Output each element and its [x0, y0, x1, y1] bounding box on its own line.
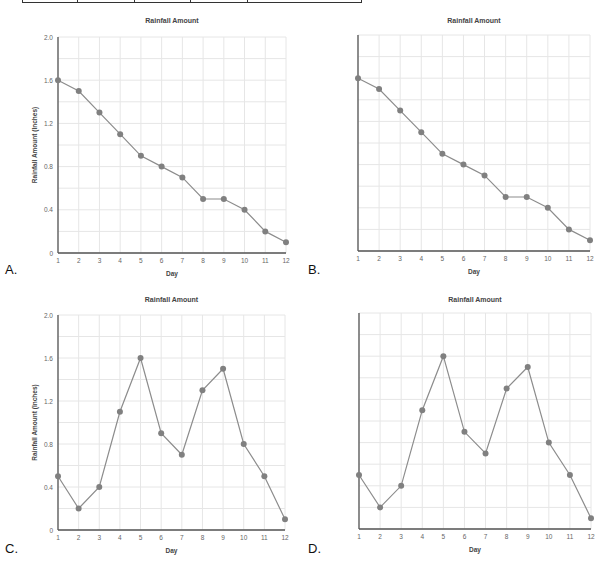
data-point-marker [355, 75, 361, 81]
data-point-marker [282, 516, 288, 522]
x-axis-label: Day [469, 546, 481, 554]
data-point-marker [588, 515, 594, 521]
data-point-marker [398, 483, 404, 489]
data-point-marker [55, 77, 61, 83]
data-point-marker [504, 386, 510, 392]
data-point-marker [439, 151, 445, 157]
y-tick-label: 0.8 [44, 163, 53, 170]
data-point-marker [482, 172, 488, 178]
data-point-marker [262, 228, 268, 234]
data-point-marker [545, 205, 551, 211]
x-tick-label: 12 [281, 534, 289, 541]
chart-title: Rainfall Amount [448, 296, 502, 303]
y-tick-label: 2.0 [44, 312, 53, 319]
x-tick-label: 12 [586, 255, 594, 262]
x-axis-label: Day [166, 547, 178, 555]
data-point-marker [376, 86, 382, 92]
x-tick-label: 11 [261, 534, 268, 541]
x-tick-label: 9 [526, 533, 530, 540]
data-point-marker [567, 472, 573, 478]
y-tick-label: 1.2 [44, 120, 53, 127]
data-line [358, 78, 590, 240]
data-point-marker [200, 196, 206, 202]
x-tick-label: 2 [377, 255, 381, 262]
data-point-marker [524, 194, 530, 200]
x-tick-label: 11 [262, 257, 269, 264]
chart-d: Rainfall Amount123456789101112Day [356, 296, 595, 554]
data-line [58, 80, 286, 242]
x-tick-label: 2 [77, 257, 81, 264]
grid [58, 37, 286, 253]
x-tick-label: 10 [240, 534, 248, 541]
data-point-marker [356, 472, 362, 478]
x-tick-label: 4 [420, 533, 424, 540]
option-label-d: D. [308, 541, 321, 556]
x-tick-label: 2 [77, 534, 81, 541]
data-point-marker [179, 174, 185, 180]
chart-b: Rainfall Amount123456789101112Day [355, 17, 594, 276]
x-tick-label: 11 [566, 255, 573, 262]
x-tick-label: 6 [463, 533, 467, 540]
data-point-marker [117, 131, 123, 137]
y-axis-label: Rainfall Amount (Inches) [31, 107, 39, 183]
x-tick-label: 8 [505, 533, 509, 540]
answer-choice-charts: Rainfall Amount123456789101112Day00.40.8… [0, 0, 610, 566]
data-point-marker [283, 239, 289, 245]
y-tick-label: 0.4 [44, 206, 53, 213]
data-point-marker [241, 441, 247, 447]
x-tick-label: 11 [567, 533, 574, 540]
x-tick-label: 8 [201, 257, 205, 264]
data-point-marker [117, 409, 123, 415]
y-tick-label: 0 [49, 250, 53, 257]
x-tick-label: 7 [484, 533, 488, 540]
y-tick-label: 0 [49, 527, 53, 534]
data-point-marker [242, 207, 248, 213]
data-point-marker [96, 110, 102, 116]
data-point-marker [96, 484, 102, 490]
data-point-marker [55, 473, 61, 479]
data-point-marker [377, 504, 383, 510]
data-point-marker [546, 440, 552, 446]
chart-title: Rainfall Amount [145, 296, 199, 303]
data-point-marker [158, 430, 164, 436]
x-tick-label: 1 [357, 533, 361, 540]
data-point-marker [199, 387, 205, 393]
x-tick-label: 2 [378, 533, 382, 540]
y-tick-label: 0.8 [44, 441, 53, 448]
option-label-c: C. [5, 541, 18, 556]
x-tick-label: 8 [201, 534, 205, 541]
data-point-marker [76, 506, 82, 512]
x-tick-label: 5 [442, 533, 446, 540]
data-point-marker [159, 164, 165, 170]
data-point-marker [419, 407, 425, 413]
data-point-marker [138, 153, 144, 159]
data-point-marker [483, 450, 489, 456]
option-label-a: A. [5, 262, 17, 277]
chart-title: Rainfall Amount [447, 17, 501, 24]
x-tick-label: 12 [587, 533, 595, 540]
x-tick-label: 7 [181, 257, 185, 264]
x-tick-label: 6 [462, 255, 466, 262]
y-tick-label: 1.2 [44, 398, 53, 405]
data-point-marker [525, 364, 531, 370]
x-tick-label: 4 [419, 255, 423, 262]
data-point-marker [179, 452, 185, 458]
x-tick-label: 9 [222, 257, 226, 264]
x-tick-label: 8 [504, 255, 508, 262]
x-tick-label: 1 [356, 255, 360, 262]
chart-title: Rainfall Amount [145, 17, 199, 24]
data-point-marker [261, 473, 267, 479]
data-point-marker [138, 355, 144, 361]
chart-a: Rainfall Amount123456789101112Day00.40.8… [31, 17, 290, 278]
data-point-marker [220, 366, 226, 372]
data-point-marker [221, 196, 227, 202]
x-tick-label: 9 [221, 534, 225, 541]
x-tick-label: 10 [545, 533, 553, 540]
x-tick-label: 3 [98, 257, 102, 264]
x-tick-label: 7 [180, 534, 184, 541]
x-axis-label: Day [166, 270, 178, 278]
grid [58, 315, 285, 530]
data-point-marker [566, 226, 572, 232]
data-point-marker [397, 108, 403, 114]
x-tick-label: 3 [398, 255, 402, 262]
